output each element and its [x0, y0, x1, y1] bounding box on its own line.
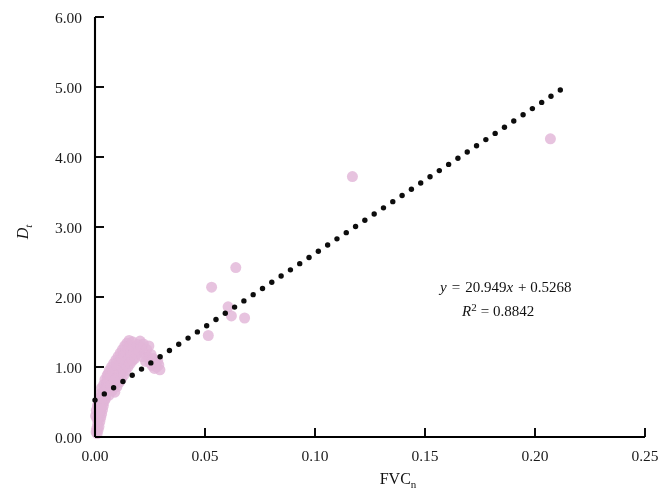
equation-y-symbol: y	[438, 279, 447, 295]
trendline-dot	[381, 205, 386, 210]
trendline-dot	[409, 187, 414, 192]
trendline-dot	[539, 100, 544, 105]
x-axis-title-sub: n	[411, 478, 417, 490]
trendline-dot	[325, 242, 330, 247]
equation-intercept: + 0.5268	[518, 279, 571, 295]
x-axis-ticks	[95, 428, 645, 437]
trendline-dot	[260, 286, 265, 291]
y-tick-label: 0.00	[55, 429, 82, 446]
scatter-plot: 0.001.002.003.004.005.006.00 0.000.050.1…	[0, 0, 666, 493]
equation-equals: =	[452, 279, 460, 295]
trendline-dot	[130, 373, 135, 378]
trendline-dot	[185, 335, 190, 340]
svg-text:Dt: Dt	[14, 224, 34, 241]
trendline-dot	[362, 218, 367, 223]
y-axis-tick-labels: 0.001.002.003.004.005.006.00	[55, 9, 82, 446]
trendline-dot	[390, 199, 395, 204]
trendline-dot	[502, 124, 507, 129]
trendline-dot	[120, 379, 125, 384]
y-axis-title-sub: t	[22, 224, 34, 228]
figure-container: 0.001.002.003.004.005.006.00 0.000.050.1…	[0, 0, 666, 493]
data-point	[230, 262, 241, 273]
data-point	[109, 375, 120, 386]
x-tick-label: 0.25	[631, 447, 658, 464]
y-tick-label: 1.00	[55, 359, 82, 376]
trendline-dot	[251, 292, 256, 297]
trendline-dot	[437, 168, 442, 173]
x-axis-tick-labels: 0.000.050.100.150.200.25	[81, 447, 658, 464]
regression-equation: y=20.949x+ 0.5268	[438, 279, 572, 295]
trendline-dot	[399, 193, 404, 198]
y-axis-title-main: D	[14, 227, 31, 240]
trendline-dot	[371, 211, 376, 216]
y-tick-label: 6.00	[55, 9, 82, 26]
trendline-dot	[167, 348, 172, 353]
equation-x-symbol: x	[505, 279, 513, 295]
y-axis-title: Dt	[14, 224, 34, 241]
trendline-dot	[483, 137, 488, 142]
r-squared-value: = 0.8842	[481, 303, 534, 319]
trendline-dot	[195, 329, 200, 334]
trendline-dot	[139, 366, 144, 371]
x-tick-label: 0.20	[521, 447, 548, 464]
trendline-dot	[455, 156, 460, 161]
data-point	[239, 313, 250, 324]
trendline-dot	[306, 255, 311, 260]
trendline-dot	[157, 354, 162, 359]
data-point	[203, 330, 214, 341]
data-point	[347, 171, 358, 182]
trendline-dot	[548, 93, 553, 98]
trendline-dot	[520, 112, 525, 117]
trendline-dot	[530, 106, 535, 111]
trendline-dot	[223, 311, 228, 316]
trendline-dot	[232, 304, 237, 309]
data-point	[545, 133, 556, 144]
x-tick-label: 0.15	[411, 447, 438, 464]
data-point	[95, 402, 106, 413]
trendline-dot	[213, 317, 218, 322]
trendline-dot	[92, 397, 97, 402]
trendline-dot	[344, 230, 349, 235]
trendline-dot	[492, 131, 497, 136]
x-tick-label: 0.10	[301, 447, 328, 464]
y-tick-label: 2.00	[55, 289, 82, 306]
trendline-dot	[102, 391, 107, 396]
trendline-dot	[427, 174, 432, 179]
x-tick-label: 0.05	[191, 447, 218, 464]
trendline-dot	[176, 342, 181, 347]
trendline-dot	[418, 180, 423, 185]
x-axis-title: FVCn	[380, 470, 417, 490]
trendline-dot	[558, 87, 563, 92]
trendline-dot	[241, 298, 246, 303]
y-tick-label: 5.00	[55, 79, 82, 96]
trendline-dot	[269, 280, 274, 285]
data-point	[206, 282, 217, 293]
trendline-dot	[511, 118, 516, 123]
data-point	[154, 364, 165, 375]
x-axis-title-main: FVC	[380, 470, 411, 487]
trendline-dot	[288, 267, 293, 272]
trendline	[92, 87, 563, 403]
trendline-dot	[474, 143, 479, 148]
r-squared-symbol: R	[461, 303, 471, 319]
r-squared-exponent: 2	[471, 301, 477, 313]
x-tick-label: 0.00	[81, 447, 108, 464]
equation-slope: 20.949	[465, 279, 506, 295]
trendline-dot	[334, 236, 339, 241]
r-squared-annotation: R2= 0.8842	[461, 301, 534, 319]
trendline-dot	[204, 323, 209, 328]
trendline-dot	[148, 360, 153, 365]
trendline-dot	[446, 162, 451, 167]
trendline-dot	[316, 249, 321, 254]
y-tick-label: 4.00	[55, 149, 82, 166]
trendline-dot	[353, 224, 358, 229]
trendline-dot	[278, 273, 283, 278]
y-tick-label: 3.00	[55, 219, 82, 236]
trendline-dot	[297, 261, 302, 266]
trendline-dot	[465, 149, 470, 154]
trendline-dot	[111, 385, 116, 390]
